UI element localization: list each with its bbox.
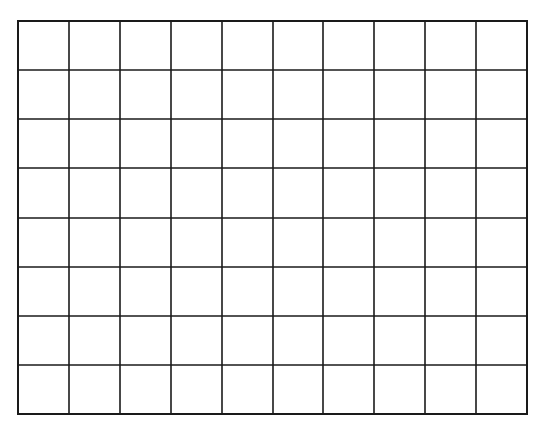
grid-lines — [17, 20, 528, 415]
blank-grid — [17, 20, 528, 415]
